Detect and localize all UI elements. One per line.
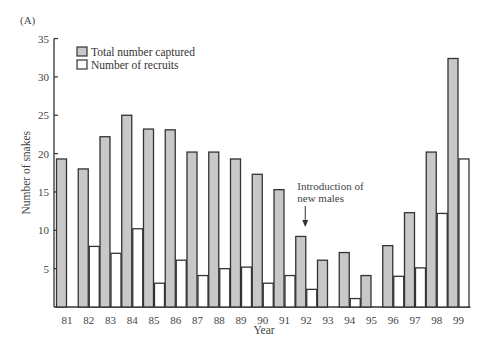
- y-tick-label: 30: [38, 71, 50, 83]
- bar-total: [426, 152, 436, 307]
- x-tick-label: 82: [83, 314, 94, 326]
- y-tick-label: 10: [38, 224, 50, 236]
- bar-recruits: [198, 276, 208, 307]
- bar-total: [274, 190, 284, 307]
- bar-total: [405, 213, 415, 307]
- x-tick-label: 96: [388, 314, 400, 326]
- bar-recruits: [437, 213, 447, 307]
- bar-recruits: [416, 268, 426, 307]
- bar-recruits: [263, 283, 273, 307]
- bar-recruits: [350, 299, 360, 307]
- x-tick-label: 94: [344, 314, 356, 326]
- bar-total: [209, 152, 219, 307]
- x-tick-label: 93: [323, 314, 335, 326]
- bar-total: [100, 137, 110, 307]
- legend-label: Number of recruits: [91, 59, 179, 71]
- x-tick-label: 97: [410, 314, 422, 326]
- y-tick-label: 25: [38, 109, 50, 121]
- y-tick-label: 35: [38, 33, 50, 45]
- bar-recruits: [242, 267, 252, 307]
- bar-total: [339, 253, 349, 307]
- x-tick-label: 95: [366, 314, 378, 326]
- bar-recruits: [307, 289, 317, 307]
- annotation-text: Introduction of: [297, 180, 364, 192]
- x-tick-label: 85: [149, 314, 161, 326]
- y-tick-label: 20: [38, 148, 50, 160]
- x-tick-label: 81: [62, 314, 73, 326]
- y-tick-label: 5: [44, 263, 50, 275]
- bar-total: [361, 276, 371, 307]
- bar-total: [231, 159, 241, 307]
- bar-total: [122, 115, 132, 307]
- bar-recruits: [155, 283, 165, 307]
- x-axis-title: Year: [253, 324, 274, 336]
- x-tick-label: 89: [236, 314, 248, 326]
- bar-total: [78, 169, 88, 307]
- bar-total: [252, 174, 262, 307]
- legend: Total number capturedNumber of recruits: [77, 46, 195, 71]
- annotation: Introduction ofnew males: [297, 180, 364, 227]
- bar-total: [383, 246, 393, 307]
- x-tick-label: 92: [301, 314, 312, 326]
- annotation-text: new males: [297, 192, 344, 204]
- arrowhead-icon: [302, 220, 308, 227]
- x-tick-label: 83: [105, 314, 117, 326]
- bar-recruits: [394, 276, 404, 307]
- x-tick-label: 84: [127, 314, 139, 326]
- bar-recruits: [285, 276, 295, 307]
- bar-total: [57, 159, 67, 307]
- bar-recruits: [220, 269, 230, 307]
- bar-recruits: [176, 260, 186, 307]
- legend-swatch: [77, 60, 87, 69]
- bar-recruits: [111, 253, 121, 307]
- x-tick-label: 98: [431, 314, 443, 326]
- bar-recruits: [133, 229, 143, 307]
- y-axis-title: Number of snakes: [20, 130, 32, 214]
- bars: [57, 58, 470, 307]
- bar-chart: 8182838485868788899091929394959697989951…: [0, 0, 480, 357]
- bar-total: [144, 129, 154, 307]
- x-tick-label: 86: [170, 314, 182, 326]
- x-tick-label: 88: [214, 314, 226, 326]
- bar-recruits: [89, 246, 99, 307]
- bar-total: [448, 58, 458, 307]
- x-tick-label: 91: [279, 314, 290, 326]
- bar-recruits: [459, 159, 469, 307]
- bar-total: [187, 152, 197, 307]
- bar-total: [296, 236, 306, 307]
- y-tick-label: 15: [38, 186, 50, 198]
- bar-total: [318, 260, 328, 307]
- legend-swatch: [77, 47, 87, 56]
- x-tick-label: 99: [453, 314, 465, 326]
- bar-total: [165, 130, 175, 307]
- x-tick-label: 87: [192, 314, 204, 326]
- legend-label: Total number captured: [91, 46, 195, 59]
